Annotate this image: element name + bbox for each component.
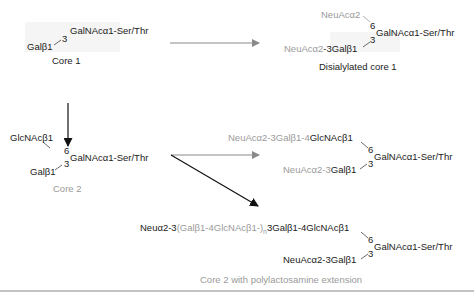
polycore2-pos6: 6 <box>368 235 373 245</box>
dicore1-neuac-prefix: NeuAcα2 <box>284 43 323 54</box>
dicore1-galnac: GalNAcα1-Ser/Thr <box>376 28 454 38</box>
polycore2-repeat: (Galβ1-4GlcNAcβ1-) <box>177 222 263 233</box>
core1-pos3: 3 <box>62 34 67 44</box>
core1-gal: Galβ1 <box>27 42 53 52</box>
dicore1-caption: Disialylated core 1 <box>319 62 397 72</box>
sialcore2-pos3: 3 <box>368 159 373 169</box>
dicore1-gal: -3Galβ1 <box>323 43 357 54</box>
core1-galnac: GalNAcα1-Ser/Thr <box>70 26 148 36</box>
sialcore2-top: NeuAcα2-3Galβ1-4GlcNAcβ1 <box>228 133 353 143</box>
sialcore2-glcnac: GlcNAcβ1 <box>310 132 353 143</box>
core2-caption: Core 2 <box>53 184 82 194</box>
polycore2-pos3: 3 <box>368 249 373 259</box>
core1-caption: Core 1 <box>52 56 81 66</box>
glycan-diagram: 3 GalNAcα1-Ser/Thr Galβ1 Core 1 NeuAcα2 … <box>0 0 474 297</box>
core2-gal: Galβ1 <box>30 167 56 177</box>
sialcore2-top-prefix: NeuAcα2-3Galβ1-4 <box>228 132 310 143</box>
polycore2-galnac: GalNAcα1-Ser/Thr <box>374 242 452 252</box>
core2-glcnac: GlcNAcβ1 <box>10 133 53 143</box>
core2-pos3: 3 <box>64 159 69 169</box>
polycore2-glcnac: 3Galβ1-4GlcNAcβ1 <box>267 222 349 233</box>
dicore1-neuac-top: NeuAcα2 <box>321 10 360 20</box>
core2-galnac: GalNAcα1-Ser/Thr <box>70 153 148 163</box>
dicore1-pos3: 3 <box>370 35 375 45</box>
polycore2-top: Neuα2-3(Galβ1-4GlcNAcβ1-)n3Galβ1-4GlcNAc… <box>140 223 349 235</box>
dicore1-pos6: 6 <box>370 21 375 31</box>
arrows-layer <box>0 0 474 297</box>
polycore2-caption: Core 2 with polylactosamine extension <box>200 275 362 285</box>
dicore1-neuac-bottom: NeuAcα2-3Galβ1 <box>284 44 357 54</box>
arrow-core2-to-polylactosamine <box>171 155 258 206</box>
core2-pos6: 6 <box>64 146 69 156</box>
sialcore2-bottom: NeuAcα2-3Galβ1 <box>283 165 356 175</box>
polycore2-bottom: NeuAcα2-3Galβ1 <box>283 255 356 265</box>
sialcore2-galnac: GalNAcα1-Ser/Thr <box>374 152 452 162</box>
polycore2-neu: Neuα2-3 <box>140 222 177 233</box>
sialcore2-gal: Galβ1 <box>331 164 357 175</box>
sialcore2-bottom-prefix: NeuAcα2-3 <box>283 164 331 175</box>
sialcore2-pos6: 6 <box>368 145 373 155</box>
